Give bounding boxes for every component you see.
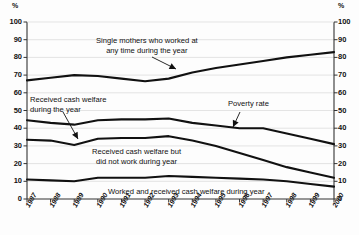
anno-worked-any-time: Single mothers who worked at any time du… bbox=[96, 36, 198, 55]
anno-received-cash-welfare-line2: during the year bbox=[30, 105, 106, 115]
anno-welfare-not-work: Received cash welfare but did not work d… bbox=[92, 147, 181, 166]
anno-received-cash-welfare: Received cash welfare during the year bbox=[30, 95, 106, 114]
anno-worked-and-welfare: Worked and received cash welfare during … bbox=[108, 187, 264, 197]
anno-poverty-rate: Poverty rate bbox=[228, 99, 269, 109]
series-line-0 bbox=[27, 52, 334, 81]
anno-poverty-rate-line1: Poverty rate bbox=[228, 99, 269, 109]
chart-canvas: % % 1009080706050403020100 1009080706050… bbox=[0, 0, 359, 235]
anno-worked-any-time-line2: any time during the year bbox=[96, 46, 198, 56]
anno-welfare-not-work-line2: did not work during year bbox=[92, 157, 181, 167]
anno-worked-and-welfare-line1: Worked and received cash welfare during … bbox=[108, 187, 264, 197]
anno-worked-any-time-line1: Single mothers who worked at bbox=[96, 36, 198, 46]
anno-received-cash-welfare-line1: Received cash welfare bbox=[30, 95, 106, 105]
series-line-1 bbox=[27, 118, 334, 144]
anno-welfare-not-work-line1: Received cash welfare but bbox=[92, 147, 181, 157]
series-lines bbox=[27, 52, 334, 187]
